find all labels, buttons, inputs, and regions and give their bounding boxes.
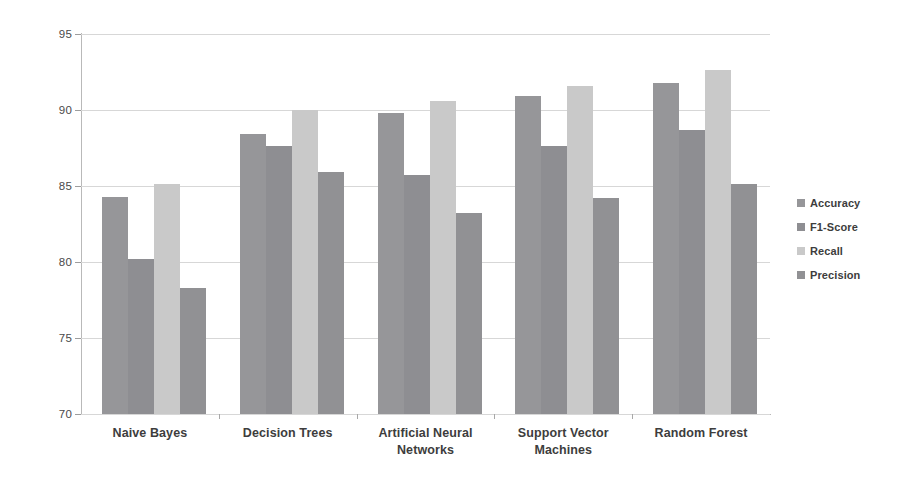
bar: [240, 134, 266, 414]
y-tick-mark: [75, 34, 81, 35]
bar: [102, 197, 128, 414]
bar-group: [653, 34, 757, 414]
legend-item-label: F1-Score: [810, 221, 858, 233]
bar-group: [515, 34, 619, 414]
legend-item[interactable]: Precision: [797, 263, 901, 287]
legend-item[interactable]: Recall: [797, 239, 901, 263]
y-tick-label: 95: [42, 28, 72, 40]
y-axis-ticks: 959085807570: [10, 0, 72, 485]
legend-swatch-precision-icon: [797, 271, 805, 279]
bar: [430, 101, 456, 414]
bar: [679, 130, 705, 414]
x-tick-mark: [219, 414, 220, 419]
bar: [378, 113, 404, 414]
x-axis-category-label: Naive Bayes: [75, 425, 225, 442]
bar: [653, 83, 679, 414]
bar: [593, 198, 619, 414]
bar: [180, 288, 206, 414]
bar: [567, 86, 593, 414]
bar: [266, 146, 292, 414]
y-tick-mark: [75, 414, 81, 415]
y-tick-mark: [75, 338, 81, 339]
legend-item-label: Accuracy: [810, 197, 860, 209]
bar: [154, 184, 180, 414]
x-axis-category-label: Support Vector Machines: [488, 425, 638, 459]
y-tick-label: 75: [42, 332, 72, 344]
legend-item-label: Recall: [810, 245, 843, 257]
bar: [292, 110, 318, 414]
y-tick-mark: [75, 110, 81, 111]
legend-item[interactable]: F1-Score: [797, 215, 901, 239]
y-tick-label: 70: [42, 408, 72, 420]
x-axis-category-label: Artificial Neural Networks: [351, 425, 501, 459]
legend-swatch-recall-icon: [797, 247, 805, 255]
bar: [515, 96, 541, 414]
chart-legend: AccuracyF1-ScoreRecallPrecision: [797, 191, 901, 287]
legend-item-label: Precision: [810, 269, 860, 281]
bar: [705, 70, 731, 414]
x-tick-mark: [357, 414, 358, 419]
bar: [456, 213, 482, 414]
y-tick-mark: [75, 186, 81, 187]
bar: [128, 259, 154, 414]
x-axis-category-label: Decision Trees: [213, 425, 363, 442]
gridline: [81, 414, 770, 415]
y-tick-label: 90: [42, 104, 72, 116]
x-tick-mark: [632, 414, 633, 419]
bar: [731, 184, 757, 414]
bar-group: [240, 34, 344, 414]
bar: [541, 146, 567, 414]
bar-chart: 959085807570 Naive BayesDecision TreesAr…: [0, 0, 904, 485]
x-tick-mark: [494, 414, 495, 419]
bar-group: [378, 34, 482, 414]
x-axis-category-label: Random Forest: [626, 425, 776, 442]
bar-group: [102, 34, 206, 414]
y-tick-mark: [75, 262, 81, 263]
legend-item[interactable]: Accuracy: [797, 191, 901, 215]
bar: [404, 175, 430, 414]
legend-swatch-f1-score-icon: [797, 223, 805, 231]
legend-swatch-accuracy-icon: [797, 199, 805, 207]
plot-area: [81, 34, 770, 414]
y-tick-label: 85: [42, 180, 72, 192]
y-tick-label: 80: [42, 256, 72, 268]
bar: [318, 172, 344, 414]
